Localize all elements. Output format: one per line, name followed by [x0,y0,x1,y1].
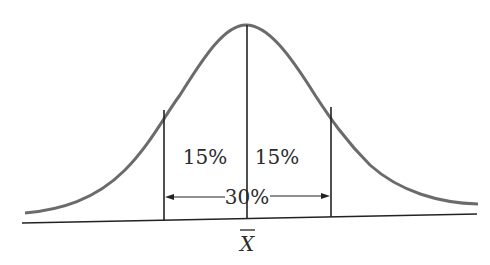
baseline-axis [22,214,477,223]
mean-symbol-label: X [238,232,255,256]
left-area-label: 15% [183,145,227,169]
arrowhead-right-icon [321,193,330,199]
arrowhead-left-icon [165,194,174,200]
right-area-label: 15% [255,145,299,169]
span-label: 30% [225,185,269,209]
normal-curve-diagram: 15% 15% 30% X [0,0,490,265]
